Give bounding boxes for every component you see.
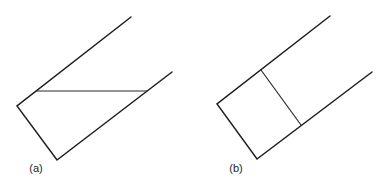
diagram-canvas: (a) (b) <box>0 0 389 186</box>
figure-b-outline <box>217 16 372 159</box>
figure-a: (a) <box>17 17 172 174</box>
figure-a-outline <box>17 17 172 160</box>
figure-b-label: (b) <box>229 162 242 174</box>
figure-a-label: (a) <box>29 162 42 174</box>
figure-b-perpendicular-cross-line <box>261 70 301 125</box>
figure-b: (b) <box>217 16 372 174</box>
